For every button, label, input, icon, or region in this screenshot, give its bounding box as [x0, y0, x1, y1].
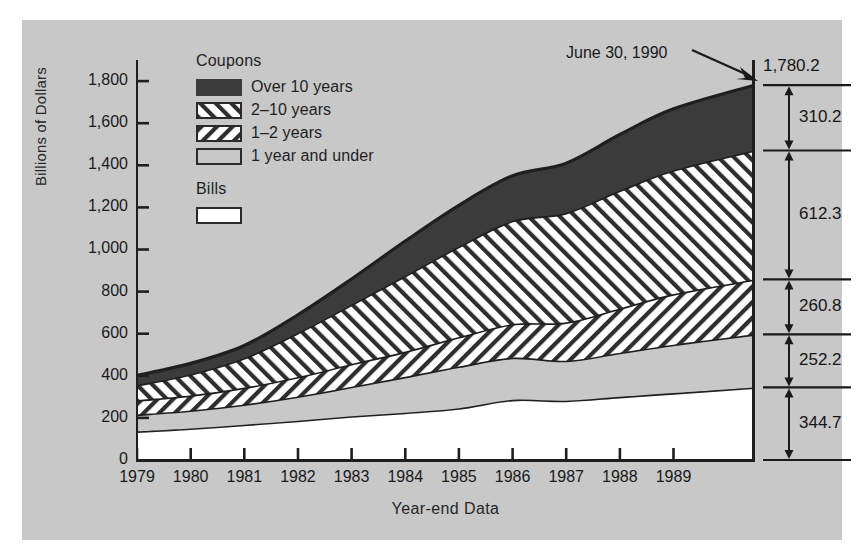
- legend-item-1-2-years: 1–2 years: [196, 123, 426, 143]
- legend-swatch-1-2-years: [196, 125, 242, 142]
- x-tick-label: 1980: [173, 468, 209, 486]
- bracket-arrowhead-down: [785, 324, 794, 333]
- x-tick-label: 1988: [602, 468, 638, 486]
- bracket-arrowhead-up: [785, 280, 794, 289]
- x-axis-title: Year-end Data: [136, 500, 755, 518]
- bracket-segment-value: 310.2: [799, 107, 842, 127]
- bracket-arrowhead-up: [785, 152, 794, 161]
- y-tick-label: 1,800: [66, 72, 128, 88]
- legend-label-1-year-and-under: 1 year and under: [251, 147, 374, 165]
- bracket-arrowhead-down: [785, 141, 794, 150]
- bracket-segment-value: 260.8: [799, 296, 842, 316]
- x-tick-label: 1981: [227, 468, 263, 486]
- legend-swatch-bills: [196, 207, 242, 224]
- bracket-segment-value: 252.2: [799, 350, 842, 370]
- y-tick-label: 400: [66, 367, 128, 383]
- x-tick-label: 1982: [280, 468, 316, 486]
- bracket-arrowhead-up: [785, 86, 794, 95]
- x-tick-label: 1987: [548, 468, 584, 486]
- y-tick-label: 1,600: [66, 114, 128, 130]
- x-tick-label: 1979: [119, 468, 155, 486]
- bracket-arrowhead-up: [785, 335, 794, 344]
- y-axis-title: Billions of Dollars: [32, 17, 49, 237]
- bracket-arrowhead-down: [785, 377, 794, 386]
- legend-heading-coupons: Coupons: [196, 52, 426, 70]
- bracket-arrowhead-up: [785, 388, 794, 397]
- bracket-arrowhead-down: [785, 450, 794, 459]
- legend-label-1-2-years: 1–2 years: [251, 124, 322, 142]
- legend-item-1-year-and-under: 1 year and under: [196, 146, 426, 166]
- y-tick-label: 1,000: [66, 240, 128, 256]
- y-tick-label: 1,400: [66, 156, 128, 172]
- legend-swatch-over-10-years: [196, 79, 242, 96]
- x-axis-ticks: 1979198019811982198319841985198619871988…: [136, 468, 755, 494]
- y-tick-label: 0: [66, 451, 128, 467]
- legend-label-over-10-years: Over 10 years: [251, 78, 353, 96]
- x-tick-label: 1984: [387, 468, 423, 486]
- chart-page: Billions of Dollars 02004006008001,0001,…: [0, 0, 864, 558]
- x-tick-label: 1986: [495, 468, 531, 486]
- legend-item-bills: [196, 205, 426, 225]
- y-tick-label: 600: [66, 325, 128, 341]
- legend-swatch-1-year-and-under: [196, 148, 242, 165]
- y-tick-label: 200: [66, 409, 128, 425]
- y-tick-label: 1,200: [66, 198, 128, 214]
- legend-label-2-10-years: 2–10 years: [251, 101, 331, 119]
- x-tick-label: 1983: [334, 468, 370, 486]
- x-tick-label: 1989: [656, 468, 692, 486]
- y-tick-label: 800: [66, 283, 128, 299]
- legend-heading-bills: Bills: [196, 180, 426, 198]
- x-tick-label: 1985: [441, 468, 477, 486]
- bracket-arrowhead-down: [785, 269, 794, 278]
- chart-legend: Coupons Over 10 years 2–10 years 1–2 yea…: [196, 52, 426, 228]
- y-axis-ticks: 02004006008001,0001,2001,4001,6001,800: [58, 0, 128, 558]
- legend-item-over-10-years: Over 10 years: [196, 77, 426, 97]
- callout-label: June 30, 1990: [566, 44, 667, 62]
- legend-item-2-10-years: 2–10 years: [196, 100, 426, 120]
- legend-swatch-2-10-years: [196, 102, 242, 119]
- bracket-segment-value: 612.3: [799, 204, 842, 224]
- bracket-segment-value: 344.7: [799, 413, 842, 433]
